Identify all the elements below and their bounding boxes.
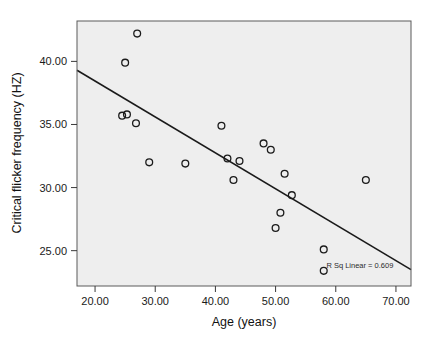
x-tick-label: 70.00 — [382, 295, 410, 307]
x-tick-label: 20.00 — [81, 295, 109, 307]
x-axis-ticks: 20.0030.0040.0050.0060.0070.00 — [81, 286, 409, 307]
y-tick-label: 30.00 — [39, 182, 67, 194]
y-axis-title: Critical flicker frequency (HZ) — [10, 72, 24, 233]
y-tick-label: 35.00 — [39, 118, 67, 130]
x-tick-label: 60.00 — [322, 295, 350, 307]
x-tick-label: 40.00 — [202, 295, 230, 307]
y-axis-ticks: 25.0030.0035.0040.00 — [39, 55, 77, 256]
scatter-chart: 20.0030.0040.0050.0060.0070.00 25.0030.0… — [0, 0, 432, 348]
x-tick-label: 50.00 — [262, 295, 290, 307]
plot-area: 20.0030.0040.0050.0060.0070.00 25.0030.0… — [0, 0, 432, 348]
r-squared-annotation: R Sq Linear = 0.609 — [326, 261, 393, 270]
y-tick-label: 25.00 — [39, 245, 67, 257]
plot-background — [77, 21, 411, 286]
y-tick-label: 40.00 — [39, 55, 67, 67]
x-axis-title: Age (years) — [212, 315, 277, 329]
x-tick-label: 30.00 — [141, 295, 169, 307]
